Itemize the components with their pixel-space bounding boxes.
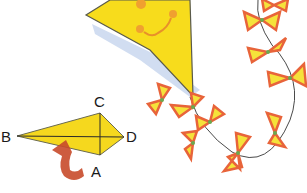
label-d: D (126, 129, 137, 144)
kite-eye-right (169, 10, 177, 18)
kite-eye-nose (136, 25, 144, 33)
kite-illustration (0, 0, 307, 193)
label-a: A (91, 164, 101, 179)
diagram-kite (17, 113, 124, 155)
label-c: C (94, 94, 105, 109)
label-b: B (1, 129, 11, 144)
